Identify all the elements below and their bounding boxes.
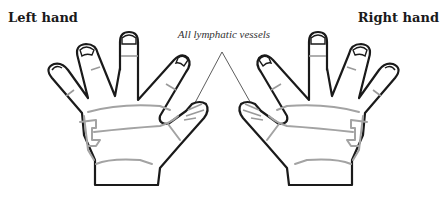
left-hand-drawing — [48, 32, 207, 185]
right-hand-drawing — [239, 32, 398, 185]
hands-illustration — [0, 0, 447, 203]
